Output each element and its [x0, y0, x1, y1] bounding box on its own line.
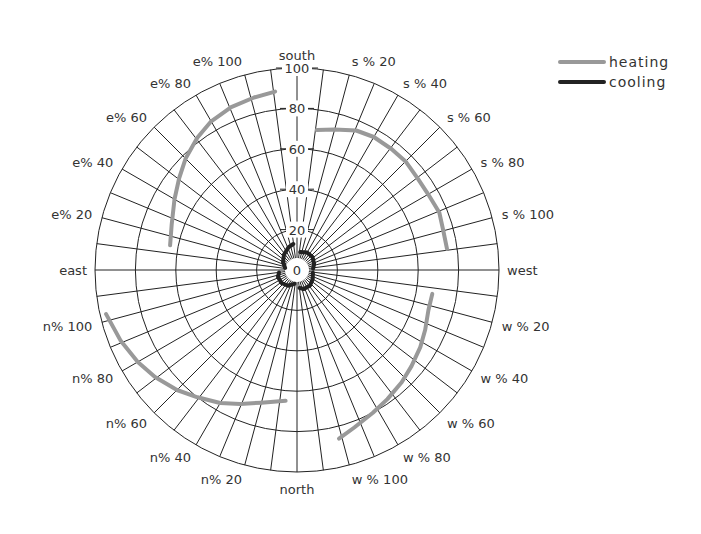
radial-tick-label: 100	[285, 61, 310, 76]
grid-spoke	[137, 277, 288, 393]
grid-spoke	[102, 218, 286, 267]
quadrant-label: w % 60	[447, 416, 495, 431]
grid-spoke	[220, 281, 293, 457]
quadrant-label: n% 20	[201, 472, 242, 487]
quadrant-label: e% 20	[51, 207, 92, 222]
grid-spoke	[302, 281, 375, 457]
grid-spoke	[245, 282, 294, 466]
heating-swatch-icon	[558, 60, 606, 64]
axis-labels: 020406080100southwestnortheasts % 20s % …	[43, 48, 554, 497]
grid-spoke	[308, 275, 484, 348]
direction-label-south: south	[279, 48, 315, 63]
quadrant-label: n% 80	[72, 371, 113, 386]
quadrant-label: e% 60	[106, 110, 147, 125]
quadrant-label: e% 40	[72, 155, 113, 170]
grid-spoke	[137, 147, 288, 263]
direction-label-north: north	[280, 482, 315, 497]
heating-line	[106, 314, 286, 404]
quadrant-label: n% 40	[150, 450, 191, 465]
radial-tick-label: 60	[289, 142, 306, 157]
grid-spoke	[174, 110, 290, 261]
data-series	[106, 92, 447, 439]
cooling-swatch-icon	[558, 80, 606, 84]
grid-spoke	[302, 83, 375, 259]
legend-item-cooling: cooling	[558, 72, 669, 92]
radial-tick-label: 20	[289, 223, 306, 238]
quadrant-label: w % 100	[352, 472, 408, 487]
direction-label-east: east	[59, 263, 87, 278]
quadrant-label: n% 60	[106, 416, 147, 431]
quadrant-label: s % 80	[481, 155, 525, 170]
quadrant-label: s % 20	[352, 54, 396, 69]
grid-spoke	[309, 273, 493, 322]
grid-spoke	[308, 193, 484, 266]
quadrant-label: e% 80	[150, 76, 191, 91]
legend: heating cooling	[558, 52, 669, 92]
quadrant-label: s % 60	[447, 110, 491, 125]
legend-label: heating	[609, 54, 669, 70]
quadrant-label: e% 100	[193, 54, 242, 69]
legend-label: cooling	[609, 74, 666, 90]
quadrant-label: s % 100	[502, 207, 554, 222]
direction-label-west: west	[507, 263, 538, 278]
grid-spoke	[304, 280, 420, 431]
grid-spoke	[309, 218, 493, 267]
grid-spoke	[110, 275, 286, 348]
quadrant-label: s % 40	[403, 76, 447, 91]
radial-tick-label: 40	[289, 182, 306, 197]
radial-tick-label: 80	[289, 101, 306, 116]
legend-item-heating: heating	[558, 52, 669, 72]
quadrant-label: w % 80	[403, 450, 451, 465]
quadrant-label: w % 40	[481, 371, 529, 386]
grid-spoke	[102, 273, 286, 322]
quadrant-label: n% 100	[43, 319, 93, 334]
grid-spoke	[307, 277, 458, 393]
grid-spoke	[110, 193, 286, 266]
grid-spoke	[174, 280, 290, 431]
quadrant-label: w % 20	[502, 319, 550, 334]
radial-tick-label: 0	[293, 263, 301, 278]
